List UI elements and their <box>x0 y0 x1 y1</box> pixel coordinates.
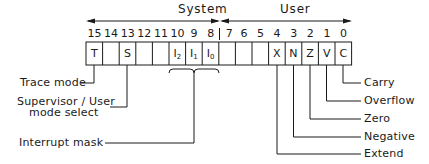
bit-number-9: 9 <box>186 28 203 40</box>
cell-trace-flag: T <box>86 42 103 65</box>
bit-number-3: 3 <box>285 28 302 40</box>
bit-number-1: 1 <box>318 28 335 40</box>
label-interrupt-mask: Interrupt mask <box>19 137 103 149</box>
bit-number-4: 4 <box>269 28 286 40</box>
bit-number-8: 8 <box>202 28 219 40</box>
cell-interrupt-mask-i2: I2 <box>169 42 186 65</box>
cell-extend-flag: X <box>269 42 286 65</box>
cell-supervisor-flag: S <box>119 42 136 65</box>
cell-zero-flag: Z <box>302 42 319 65</box>
cell-interrupt-mask-i0: I0 <box>202 42 219 65</box>
label-extend: Extend <box>364 148 404 160</box>
cell-interrupt-mask-i1: I1 <box>186 42 203 65</box>
status-register-diagram: System User <box>0 0 429 164</box>
bit-number-13: 13 <box>119 28 136 40</box>
bit-number-2: 2 <box>302 28 319 40</box>
bit-number-12: 12 <box>136 28 153 40</box>
bit-number-15: 15 <box>86 28 103 40</box>
label-negative: Negative <box>364 131 415 143</box>
bit-number-14: 14 <box>103 28 120 40</box>
bit-number-6: 6 <box>235 28 252 40</box>
label-zero: Zero <box>364 113 390 125</box>
bit-number-10: 10 <box>169 28 186 40</box>
bit-number-0: 0 <box>335 28 352 40</box>
bit-number-11: 11 <box>152 28 169 40</box>
label-trace-mode: Trace mode <box>20 77 86 89</box>
cell-carry-flag: C <box>335 42 352 65</box>
label-overflow: Overflow <box>364 95 415 107</box>
bit-number-5: 5 <box>252 28 269 40</box>
label-carry: Carry <box>364 77 395 89</box>
cell-negative-flag: N <box>285 42 302 65</box>
label-mode-select: mode select <box>29 107 99 119</box>
cell-overflow-flag: V <box>318 42 335 65</box>
